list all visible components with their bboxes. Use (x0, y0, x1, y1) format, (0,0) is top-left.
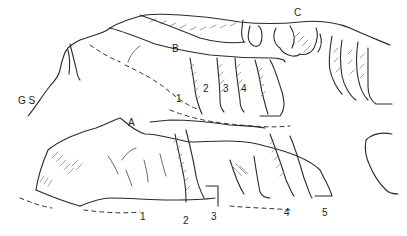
rock-a-panel-1: 1 (140, 211, 146, 222)
rock-a (20, 118, 332, 213)
rock-c-label: C (294, 7, 301, 18)
rock-a-panel-3: 3 (211, 211, 217, 222)
rock-a-panel-2: 2 (183, 215, 189, 226)
rock-b-label: B (172, 43, 179, 54)
rock-b-panel-1: 1 (176, 93, 182, 104)
outcrop-sketch: G S B C A 1 2 3 4 1 2 3 4 5 (0, 0, 407, 236)
rock-b-panel-3: 3 (223, 83, 229, 94)
rock-c (248, 26, 392, 104)
rock-a-panel-5: 5 (322, 207, 328, 218)
rock-b-panel-4: 4 (241, 83, 247, 94)
rock-b (90, 15, 290, 127)
ridge-outline (28, 14, 390, 116)
labels: G S B C A 1 2 3 4 1 2 3 4 5 (18, 7, 328, 226)
rock-a-panel-4: 4 (284, 207, 290, 218)
site-label: G S (18, 95, 36, 106)
rock-a-label: A (128, 117, 135, 128)
right-outline (365, 133, 398, 194)
rock-b-panel-2: 2 (203, 83, 209, 94)
